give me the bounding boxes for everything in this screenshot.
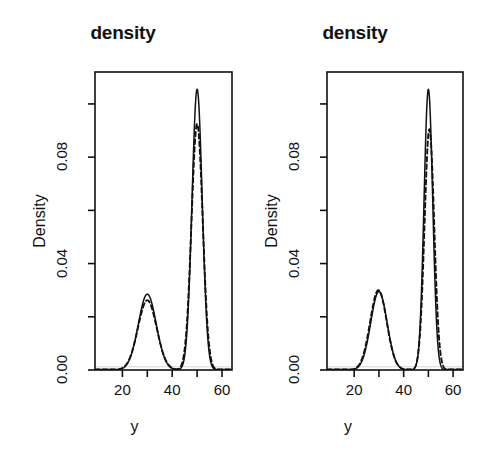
plot-frame (95, 72, 232, 370)
y-axis-title-left: Density (31, 176, 49, 266)
density-figure: density Density y 0.000.040.08204060 den… (0, 0, 493, 465)
density-curve-solid (95, 89, 232, 369)
density-curve-solid (327, 89, 463, 369)
density-panel-right: density Density y 0.000.040.08204060 (232, 0, 478, 465)
density-curve-dashed (95, 124, 232, 370)
y-tick-label: 0.08 (53, 134, 70, 180)
y-tick-label: 0.04 (53, 240, 70, 286)
x-tick-label: 60 (433, 381, 473, 398)
plot-frame (327, 72, 463, 370)
x-axis-title-right: y (232, 418, 464, 436)
x-axis-title-left: y (32, 418, 237, 436)
x-tick-label: 40 (152, 381, 192, 398)
x-tick-label: 20 (334, 381, 374, 398)
density-panel-left: density Density y 0.000.040.08204060 (0, 0, 246, 465)
x-tick-label: 20 (102, 381, 142, 398)
y-tick-label: 0.04 (285, 240, 302, 286)
density-curve-dashed (327, 129, 463, 369)
y-tick-label: 0.08 (285, 134, 302, 180)
y-axis-title-right: Density (263, 176, 281, 266)
y-tick-label: 0.00 (285, 347, 302, 393)
y-tick-label: 0.00 (53, 347, 70, 393)
x-tick-label: 40 (384, 381, 424, 398)
